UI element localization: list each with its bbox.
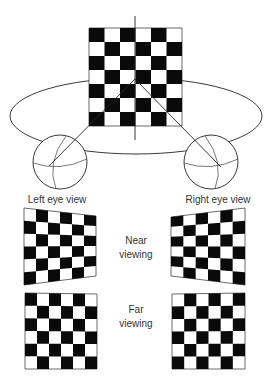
- main-board-black-square: [151, 84, 167, 98]
- main-board-black-square: [167, 70, 183, 84]
- near-left-black-square: [72, 246, 84, 257]
- far-right-black-square: [221, 331, 233, 344]
- main-board-black-square: [120, 28, 136, 42]
- main-board-black-square: [105, 98, 121, 112]
- near-left-black-square: [60, 212, 72, 224]
- far-left-black-square: [85, 331, 97, 344]
- far-right-black-square: [209, 319, 221, 332]
- far-left-black-square: [37, 331, 49, 344]
- near-right-black-square: [208, 223, 220, 235]
- near-left-black-square: [48, 223, 60, 235]
- near-left-black-square: [60, 235, 72, 246]
- near-right-black-square: [220, 234, 232, 246]
- near-viewing-label-line1: Near: [125, 235, 147, 246]
- near-right-black-square: [183, 225, 195, 236]
- far-right-black-square: [196, 331, 208, 344]
- far-left-black-square: [73, 319, 85, 332]
- far-left-black-square: [73, 294, 85, 307]
- near-viewing-label-line2: viewing: [119, 249, 152, 260]
- near-left-view-board: [24, 208, 96, 285]
- far-left-view-board: [25, 293, 97, 369]
- main-board-black-square: [151, 56, 167, 70]
- main-board-black-square: [105, 42, 121, 56]
- main-board-black-square: [89, 56, 105, 70]
- far-right-black-square: [172, 306, 184, 319]
- far-left-black-square: [85, 356, 97, 369]
- far-right-black-square: [221, 306, 233, 319]
- far-left-black-square: [25, 344, 37, 357]
- near-right-black-square: [171, 256, 183, 267]
- far-right-view-board: [172, 293, 245, 369]
- far-left-black-square: [25, 293, 37, 306]
- far-left-black-square: [37, 356, 49, 369]
- eye-view-boards: [24, 208, 245, 369]
- near-right-black-square: [196, 235, 208, 246]
- near-left-black-square: [24, 271, 36, 285]
- near-left-black-square: [60, 257, 72, 269]
- far-right-black-square: [233, 318, 245, 331]
- near-right-black-square: [208, 247, 220, 259]
- far-right-black-square: [184, 319, 196, 332]
- near-left-black-square: [84, 256, 96, 267]
- far-right-black-square: [184, 294, 196, 307]
- main-board-black-square: [136, 42, 152, 56]
- near-left-black-square: [84, 215, 96, 226]
- far-left-black-square: [73, 344, 85, 357]
- far-left-black-square: [61, 356, 73, 369]
- main-board-black-square: [151, 112, 167, 126]
- far-left-black-square: [61, 331, 73, 344]
- far-right-black-square: [196, 356, 208, 369]
- main-board-black-square: [167, 98, 183, 112]
- main-board-black-square: [167, 42, 183, 56]
- far-right-black-square: [172, 331, 184, 344]
- far-right-black-square: [221, 356, 233, 369]
- near-right-black-square: [196, 257, 208, 269]
- near-right-black-square: [233, 247, 245, 260]
- far-right-black-square: [196, 306, 208, 319]
- far-left-black-square: [49, 293, 61, 306]
- near-right-black-square: [171, 216, 183, 227]
- far-left-black-square: [61, 306, 73, 319]
- near-right-black-square: [208, 269, 220, 282]
- far-right-black-square: [172, 356, 184, 369]
- main-board-black-square: [105, 70, 121, 84]
- near-right-black-square: [220, 210, 232, 223]
- near-right-black-square: [220, 258, 232, 271]
- near-right-black-square: [183, 267, 195, 279]
- main-board-black-square: [89, 84, 105, 98]
- main-board-black-square: [136, 98, 152, 112]
- near-right-black-square: [233, 221, 245, 234]
- far-right-black-square: [233, 344, 245, 357]
- far-viewing-label-line1: Far: [129, 304, 145, 315]
- far-left-black-square: [49, 319, 61, 332]
- main-board-black-square: [89, 112, 105, 126]
- far-left-black-square: [25, 318, 37, 331]
- near-left-black-square: [48, 246, 60, 258]
- near-right-view-board: [171, 208, 245, 285]
- left-eyeball-icon: [33, 135, 87, 189]
- far-left-black-square: [37, 306, 49, 319]
- far-left-black-square: [85, 306, 97, 319]
- main-board-black-square: [89, 28, 105, 42]
- left-eye-view-label: Left eye view: [28, 194, 87, 205]
- far-right-black-square: [209, 293, 221, 306]
- near-right-black-square: [171, 236, 183, 246]
- near-left-black-square: [36, 258, 48, 271]
- right-eye-view-label: Right eye view: [185, 194, 251, 205]
- near-left-black-square: [24, 221, 36, 234]
- main-board-black-square: [120, 56, 136, 70]
- near-right-black-square: [183, 247, 195, 258]
- near-left-black-square: [48, 269, 60, 282]
- far-right-black-square: [209, 344, 221, 357]
- near-left-black-square: [84, 236, 96, 246]
- far-right-black-square: [233, 293, 245, 306]
- near-left-black-square: [72, 224, 84, 235]
- near-left-black-square: [72, 267, 84, 279]
- main-board-black-square: [120, 112, 136, 126]
- far-right-black-square: [184, 344, 196, 357]
- near-right-black-square: [196, 213, 208, 225]
- right-eyeball-icon: [184, 135, 238, 189]
- far-viewing-label-line2: viewing: [119, 318, 152, 329]
- main-board-black-square: [151, 28, 167, 42]
- near-left-black-square: [36, 209, 48, 222]
